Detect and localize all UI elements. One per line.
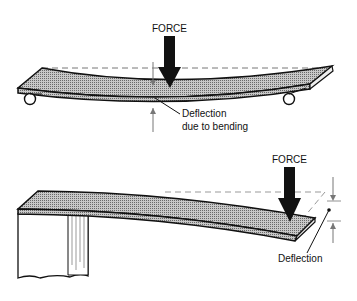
deflection-indicator-bottom [307,177,341,253]
force-label-top: FORCE [152,23,187,35]
deflection-label-top: Deflection [182,108,226,120]
deflection-label-bottom: Deflection [278,253,322,265]
force-label-bottom: FORCE [272,154,307,166]
deflection-label-top-line2: due to bending [182,121,248,133]
